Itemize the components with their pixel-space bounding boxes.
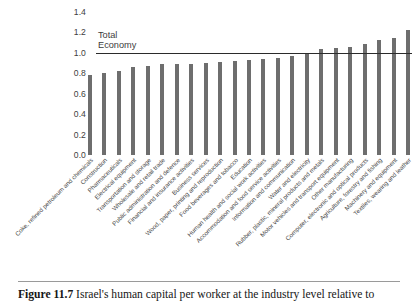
bar xyxy=(392,38,396,155)
bar xyxy=(261,59,265,155)
figure-caption-text: Israel's human capital per worker at the… xyxy=(76,288,374,301)
x-axis-category-label: Coke, refined petroleum and chemicals xyxy=(14,157,95,238)
bar xyxy=(117,71,121,155)
x-axis-category-labels: Coke, refined petroleum and chemicalsCon… xyxy=(88,157,410,275)
bar xyxy=(290,56,294,155)
bar xyxy=(276,58,280,155)
x-axis-category-label-text: Coke, refined petroleum and chemicals xyxy=(14,157,95,238)
figure-caption-label: Figure 11.7 xyxy=(18,288,73,301)
total-economy-label-line2: Economy xyxy=(98,41,136,51)
bar xyxy=(204,63,208,155)
bar xyxy=(218,62,222,155)
y-axis-tick-label: 0.8 xyxy=(74,69,86,78)
bar xyxy=(406,30,410,155)
total-economy-label-line1: Total xyxy=(98,31,117,41)
y-axis-tick-label: 1.2 xyxy=(74,28,86,37)
bar xyxy=(102,73,106,155)
bar xyxy=(189,64,193,155)
bar xyxy=(160,64,164,155)
bar xyxy=(305,53,309,155)
y-axis-tick-label: 1.0 xyxy=(74,49,86,58)
caption-divider xyxy=(18,281,400,282)
bar xyxy=(88,75,92,155)
bar xyxy=(348,47,352,155)
y-axis: 0.00.20.40.60.81.01.21.4 xyxy=(60,12,86,155)
y-axis-tick-label: 0.0 xyxy=(74,151,86,160)
bar xyxy=(175,64,179,155)
total-economy-reference-line xyxy=(96,53,412,54)
bar xyxy=(363,44,367,155)
bar xyxy=(247,60,251,155)
y-axis-tick-label: 0.6 xyxy=(74,89,86,98)
figure-container: 0.00.20.40.60.81.01.21.4 Total Economy C… xyxy=(0,0,414,308)
bar-series xyxy=(88,12,410,155)
bar xyxy=(319,49,323,155)
bar xyxy=(131,67,135,155)
y-axis-tick-label: 0.4 xyxy=(74,110,86,119)
figure-caption: Figure 11.7 Israel's human capital per w… xyxy=(18,288,404,302)
y-axis-tick-label: 0.2 xyxy=(74,130,86,139)
bar xyxy=(233,61,237,155)
y-axis-tick-label: 1.4 xyxy=(74,8,86,17)
bar xyxy=(377,40,381,155)
plot-area: Total Economy xyxy=(88,12,410,155)
bar xyxy=(334,48,338,155)
bar xyxy=(146,66,150,155)
